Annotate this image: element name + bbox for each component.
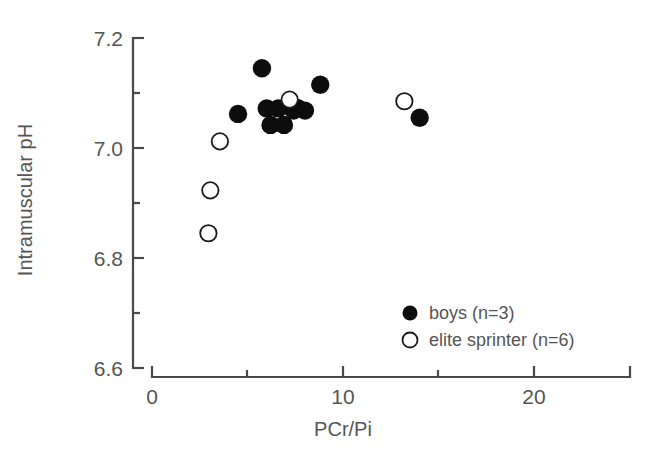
legend-marker-filled-circle-icon bbox=[403, 306, 418, 321]
data-point-open-1-4 bbox=[396, 93, 412, 109]
data-point-filled-0-9 bbox=[311, 76, 329, 94]
legend-label-boys: boys (n=3) bbox=[429, 303, 515, 323]
y-tick-label-3: 6.6 bbox=[94, 357, 123, 380]
y-tick-label-2: 6.8 bbox=[94, 247, 123, 270]
data-point-filled-0-8 bbox=[296, 101, 314, 119]
data-point-filled-0-1 bbox=[253, 59, 271, 77]
data-point-open-1-0 bbox=[200, 225, 216, 241]
data-point-filled-0-0 bbox=[229, 105, 247, 123]
x-tick-label-1: 10 bbox=[331, 385, 354, 408]
x-axis-title: PCr/Pi bbox=[314, 418, 372, 440]
data-point-open-1-2 bbox=[212, 133, 228, 149]
x-tick-label-0: 0 bbox=[146, 385, 158, 408]
data-point-open-1-3 bbox=[281, 91, 297, 107]
data-points-layer bbox=[200, 59, 429, 241]
legend-label-elite-sprinter: elite sprinter (n=6) bbox=[429, 330, 575, 350]
x-tick-label-2: 20 bbox=[522, 385, 545, 408]
plot-canvas: 7.2 7.0 6.8 6.6 0 10 20 PCr/Pi Intramusc… bbox=[0, 0, 652, 458]
data-point-open-1-1 bbox=[202, 182, 218, 198]
legend: boys (n=3) elite sprinter (n=6) bbox=[403, 303, 575, 350]
data-point-filled-0-10 bbox=[410, 109, 428, 127]
y-tick-label-0: 7.2 bbox=[94, 27, 123, 50]
y-tick-label-1: 7.0 bbox=[94, 137, 123, 160]
y-axis-title: Intramuscular pH bbox=[14, 124, 36, 276]
y-axis: 7.2 7.0 6.8 6.6 bbox=[94, 27, 144, 380]
scatter-plot-figure: 7.2 7.0 6.8 6.6 0 10 20 PCr/Pi Intramusc… bbox=[0, 0, 652, 458]
legend-marker-open-circle-icon bbox=[403, 333, 418, 348]
x-axis: 0 10 20 bbox=[146, 366, 630, 408]
